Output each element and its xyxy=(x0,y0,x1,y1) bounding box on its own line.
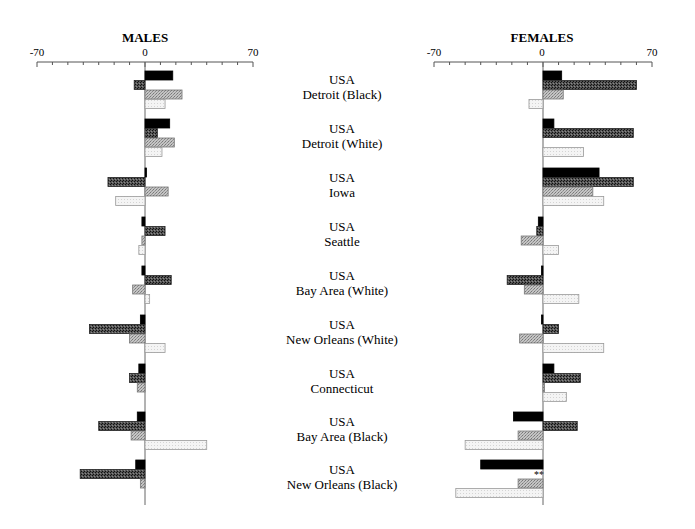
females-bar-series-4 xyxy=(529,100,543,109)
category-label-line1: USA xyxy=(329,414,356,429)
females-bar-series-1 xyxy=(543,168,599,177)
males-bar-series-3 xyxy=(137,383,145,392)
category-label-line2: New Orleans (White) xyxy=(286,332,398,347)
females-bar-series-2 xyxy=(543,374,580,383)
males-bar-series-1 xyxy=(136,460,145,469)
females-bar-series-3 xyxy=(543,187,593,196)
females-bar-series-3 xyxy=(543,383,545,392)
males-tick-label-max: 70 xyxy=(248,46,260,58)
category-label-line2: Connecticut xyxy=(311,381,374,396)
males-bar-series-3 xyxy=(145,187,168,196)
males-panel-title: MALES xyxy=(122,30,168,45)
males-bar-series-3 xyxy=(142,236,145,245)
males-tick-label-min: -70 xyxy=(30,46,45,58)
females-bar-series-4 xyxy=(543,197,604,206)
females-bar-series-1 xyxy=(513,412,543,421)
males-bar-series-1 xyxy=(137,412,145,421)
females-bar-series-2 xyxy=(543,325,559,334)
males-bar-series-3 xyxy=(140,479,145,488)
males-bar-series-3 xyxy=(145,90,182,99)
males-bar-series-2 xyxy=(99,422,145,431)
females-bar-series-3 xyxy=(518,431,543,440)
chart-canvas: MALES FEMALES -70 0 70 -70 0 70 USA Detr… xyxy=(0,0,695,529)
females-bar-series-4 xyxy=(465,441,543,450)
males-bar-series-3 xyxy=(133,285,145,294)
males-bar-series-2 xyxy=(108,178,145,187)
females-bar-series-2 xyxy=(543,81,636,90)
males-bar-series-4 xyxy=(145,344,165,353)
category-label-line2: Bay Area (White) xyxy=(296,283,388,298)
females-bar-series-1 xyxy=(538,217,543,226)
category-label-line2: Detroit (White) xyxy=(302,136,383,151)
females-bar-series-1 xyxy=(541,266,543,275)
females-bar-series-4 xyxy=(456,489,543,498)
females-bar-series-1 xyxy=(543,364,554,373)
females-bar-series-1 xyxy=(543,71,562,80)
females-bar-series-3 xyxy=(524,285,543,294)
males-bar-series-4 xyxy=(145,441,207,450)
females-bar-series-2 xyxy=(537,227,543,236)
males-tick-label-zero: 0 xyxy=(142,46,148,58)
category-label-line2: Bay Area (Black) xyxy=(297,429,388,444)
males-bar-series-4 xyxy=(116,197,145,206)
category-label-line1: USA xyxy=(329,121,356,136)
females-bar-series-4 xyxy=(543,295,579,304)
category-label-line2: Detroit (Black) xyxy=(302,87,381,102)
females-bar-series-4 xyxy=(543,246,559,255)
females-bar-series-4 xyxy=(543,344,604,353)
females-bar-series-3 xyxy=(521,236,543,245)
males-bar-series-3 xyxy=(131,431,145,440)
males-bar-series-1 xyxy=(139,364,145,373)
males-bar-series-2 xyxy=(130,374,145,383)
males-bar-series-4 xyxy=(139,246,145,255)
males-bar-series-2 xyxy=(145,276,171,285)
females-bar-series-4 xyxy=(543,393,566,402)
category-label-line1: USA xyxy=(329,268,356,283)
category-labels: USA Detroit (Black) USA Detroit (White) … xyxy=(286,72,398,492)
males-bar-series-2 xyxy=(145,227,165,236)
females-bar-series-2 xyxy=(543,422,577,431)
males-bar-series-4 xyxy=(145,100,165,109)
males-bar-series-2 xyxy=(80,470,145,479)
females-bar-series-2 xyxy=(507,276,543,285)
males-bar-series-2 xyxy=(145,129,157,138)
males-bar-series-3 xyxy=(145,138,174,147)
category-label-line1: USA xyxy=(329,219,356,234)
females-tick-label-zero: 0 xyxy=(539,46,545,58)
females-bar-series-4 xyxy=(543,148,583,157)
males-bar-series-1 xyxy=(140,315,145,324)
females-bar-series-3 xyxy=(520,334,543,343)
males-bar-series-2 xyxy=(134,81,145,90)
category-label-line1: USA xyxy=(329,317,356,332)
category-label-line1: USA xyxy=(329,170,356,185)
females-bar-series-2 xyxy=(543,129,633,138)
males-bar-series-4 xyxy=(145,148,162,157)
males-bar-series-3 xyxy=(130,334,145,343)
females-bar-series-1 xyxy=(543,119,554,128)
females-bar-series-1 xyxy=(541,315,543,324)
category-label-line2: Seattle xyxy=(324,234,360,249)
females-bar-series-3 xyxy=(543,90,563,99)
females-bar-series-1 xyxy=(481,460,543,469)
males-bar-series-1 xyxy=(145,71,173,80)
females-bar-series-2 xyxy=(543,178,633,187)
category-label-line1: USA xyxy=(329,366,356,381)
males-bar-series-2 xyxy=(89,325,145,334)
males-bar-series-1 xyxy=(142,266,145,275)
males-bar-series-4 xyxy=(145,295,150,304)
females-tick-label-max: 70 xyxy=(647,46,659,58)
females-bar-series-3 xyxy=(518,479,543,488)
category-label-line1: USA xyxy=(329,72,356,87)
category-label-line2: New Orleans (Black) xyxy=(287,477,397,492)
females-tick-label-min: -70 xyxy=(427,46,442,58)
category-label-line1: USA xyxy=(329,462,356,477)
males-bar-series-1 xyxy=(145,119,170,128)
category-label-line2: Iowa xyxy=(329,185,355,200)
males-bar-series-1 xyxy=(142,217,145,226)
females-panel-title: FEMALES xyxy=(511,30,574,45)
males-bar-series-1 xyxy=(145,168,147,177)
